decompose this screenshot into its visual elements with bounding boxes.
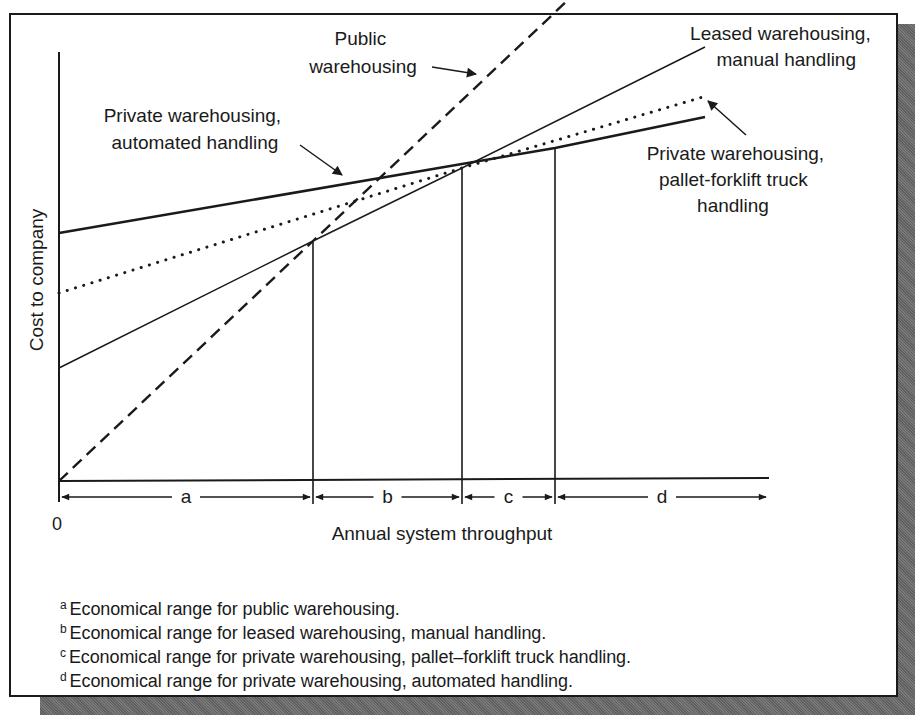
footnote-a: aEconomical range for public warehousing… [60, 594, 400, 620]
svg-text:a: a [181, 486, 192, 507]
series-line-solid-thin [59, 47, 705, 368]
annotation-public: Public warehousing [308, 28, 417, 77]
pallet-arrow-icon [708, 101, 746, 135]
range-a: a [62, 486, 310, 507]
svg-text:b: b [382, 486, 393, 507]
x-axis-label: Annual system throughput [332, 523, 553, 544]
annotation-automated: Private warehousing, automated handling [104, 105, 287, 153]
footnote-b: bEconomical range for leased warehousing… [60, 618, 546, 644]
automated-arrow-icon [300, 145, 342, 175]
footnote-d: dEconomical range for private warehousin… [60, 666, 573, 692]
annotation-leased: Leased warehousing, manual handling [690, 23, 876, 70]
public-arrow-icon [432, 67, 476, 74]
range-b: b [316, 486, 459, 507]
range-d: d [558, 486, 766, 507]
annotation-pallet: Private warehousing, pallet-forklift tru… [647, 143, 830, 216]
footnote-c: cEconomical range for private warehousin… [60, 642, 631, 668]
svg-text:c: c [504, 486, 514, 507]
origin-label: 0 [52, 514, 62, 534]
range-c: c [465, 486, 552, 507]
y-axis-label: Cost to company [26, 208, 47, 351]
range-brackets: abcd [62, 478, 769, 507]
series-line-dotted [59, 97, 703, 293]
svg-text:d: d [657, 486, 668, 507]
x-axis [59, 478, 769, 481]
